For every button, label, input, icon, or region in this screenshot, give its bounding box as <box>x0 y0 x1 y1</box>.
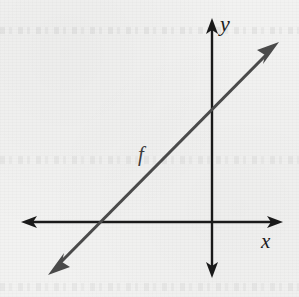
function-line-f <box>48 42 279 275</box>
function-label-f: f <box>138 144 144 165</box>
function-line-f-stroke <box>57 51 270 266</box>
x-axis-label: x <box>261 231 270 252</box>
y-axis <box>206 18 218 278</box>
coordinate-graph <box>0 0 299 297</box>
x-axis <box>21 216 283 228</box>
figure-canvas: y x f <box>0 0 299 297</box>
y-axis-label: y <box>220 13 230 35</box>
